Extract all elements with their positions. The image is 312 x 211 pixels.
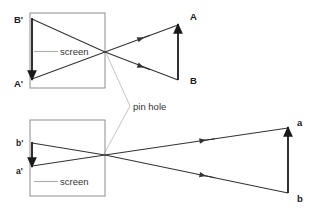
label-b: B bbox=[190, 75, 197, 86]
pin-hole-leader-lines bbox=[104, 53, 130, 154]
ray-direction-marker-top-lower bbox=[141, 66, 150, 69]
label-b-prime-small: b' bbox=[16, 138, 23, 148]
diagram-canvas: B' A' A B screen pin hole bbox=[0, 0, 312, 211]
ray-direction-marker-bottom-lower bbox=[203, 175, 215, 178]
label-a-small: a bbox=[297, 117, 303, 128]
top-diagram-group: B' A' A B screen bbox=[14, 11, 197, 89]
label-a: A bbox=[190, 11, 197, 22]
bottom-diagram-group: b' a' a b screen bbox=[16, 117, 303, 204]
label-a-prime: A' bbox=[14, 78, 23, 89]
screen-label-top: screen bbox=[60, 46, 89, 57]
label-a-prime-small: a' bbox=[16, 166, 23, 176]
pin-hole-label: pin hole bbox=[133, 101, 166, 112]
pin-hole-callout: pin hole bbox=[104, 53, 166, 154]
label-b-prime: B' bbox=[14, 14, 23, 25]
label-b-small: b bbox=[297, 193, 303, 204]
pinhole-camera-figure: B' A' A B screen pin hole bbox=[0, 0, 312, 211]
ray-a-bottom bbox=[32, 128, 288, 166]
screen-label-bottom: screen bbox=[60, 176, 89, 187]
ray-direction-marker-bottom-upper bbox=[203, 139, 215, 141]
ray-direction-marker-top-upper bbox=[141, 35, 150, 38]
